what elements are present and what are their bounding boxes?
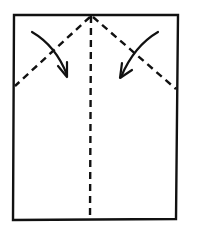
center-crease-line — [90, 16, 91, 219]
fold-diagram — [0, 0, 199, 230]
paper-outline — [13, 15, 178, 220]
